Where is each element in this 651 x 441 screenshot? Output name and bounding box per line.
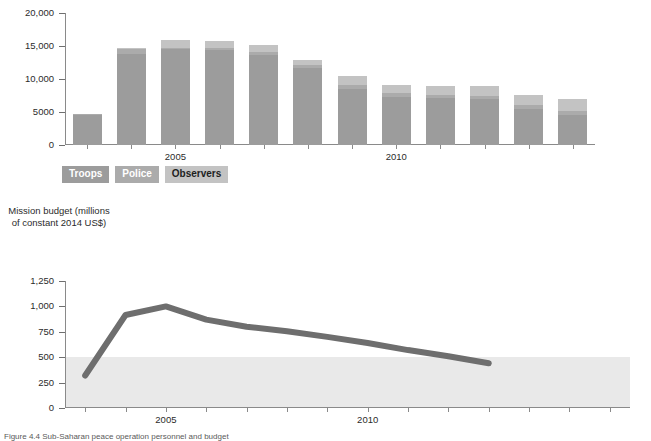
line-y-tick-0: 0 [59,408,65,409]
bar-y-tick-15000: 15,000 [59,46,65,47]
bar-y-tick-5000: 5000 [59,112,65,113]
bar-x-tick-2014 [573,145,574,149]
line-x-tick-label-2010: 2010 [357,415,378,425]
bar-x-tick-2008 [308,145,309,149]
bar-2004 [117,48,146,145]
bar-2006 [205,41,234,145]
bar-segment-troops-2012 [470,99,499,145]
line-x-tick-5 [287,408,288,412]
bar-segment-observers-2007 [249,45,278,52]
legend-item-observers[interactable]: Observers [165,166,228,183]
bar-segment-troops-2003 [73,115,102,145]
bar-segment-observers-2006 [205,41,234,48]
bar-y-tick-label-0: 0 [49,140,54,150]
bar-2003 [73,114,102,145]
bar-segment-troops-2004 [117,54,146,145]
line-chart-figure: Mission budget (millions of constant 201… [0,205,651,441]
bar-2013 [514,95,543,145]
bar-y-tick-label-5000: 5000 [33,107,54,117]
bar-x-tick-2013 [529,145,530,149]
bar-chart-legend: Troops Police Observers [62,166,228,183]
bar-y-tick-label-10000: 10,000 [25,74,54,84]
bar-segment-observers-2014 [558,99,587,110]
bar-segment-troops-2013 [514,109,543,145]
bar-chart-y-axis-line [65,13,66,145]
line-x-tick-8 [408,408,409,412]
bar-2007 [249,45,278,145]
line-y-tick-label-750: 750 [38,327,54,337]
line-x-tick-6 [327,408,328,412]
line-chart-plot-area: 02505007501,0001,250 20052010 [65,281,630,408]
bar-y-tick-label-15000: 15,000 [25,41,54,51]
bar-x-tick-2006 [220,145,221,149]
line-x-tick-4 [247,408,248,412]
line-x-tick-1 [126,408,127,412]
bar-segment-observers-2011 [426,86,455,95]
bar-x-tick-2003 [87,145,88,149]
bar-segment-troops-2008 [293,68,322,145]
bar-y-tick-20000: 20,000 [59,13,65,14]
line-x-tick-11 [529,408,530,412]
bar-2008 [293,60,322,145]
figure-caption: Figure 4.4 Sub-Saharan peace operation p… [4,432,229,441]
line-x-tick-12 [569,408,570,412]
line-x-tick-7 [368,408,369,412]
bar-2014 [558,99,587,145]
bar-x-tick-2007 [264,145,265,149]
legend-item-troops[interactable]: Troops [62,166,109,183]
bar-segment-troops-2010 [382,97,411,146]
bar-2011 [426,86,455,145]
line-y-tick-label-1000: 1,000 [30,302,54,312]
line-x-tick-13 [610,408,611,412]
bar-x-tick-label-2005: 2005 [165,152,186,162]
line-y-tick-label-250: 250 [38,378,54,388]
bar-segment-observers-2005 [161,40,190,48]
bar-2010 [382,85,411,145]
line-x-tick-3 [206,408,207,412]
line-y-tick-label-1250: 1,250 [30,276,54,286]
bar-x-tick-2004 [131,145,132,149]
bar-x-tick-2005 [175,145,176,149]
line-y-tick-label-0: 0 [49,403,54,413]
bar-x-tick-2011 [440,145,441,149]
line-y-tick-label-500: 500 [38,352,54,362]
line-x-tick-10 [489,408,490,412]
bar-2009 [338,76,367,145]
line-x-tick-2 [166,408,167,412]
bar-x-tick-label-2010: 2010 [386,152,407,162]
bar-2012 [470,86,499,145]
bar-segment-troops-2005 [161,49,190,145]
bar-2005 [161,40,190,145]
legend-item-police[interactable]: Police [115,166,158,183]
line-x-tick-9 [448,408,449,412]
bar-segment-troops-2009 [338,89,367,145]
bar-y-tick-0: 0 [59,145,65,146]
bar-segment-observers-2013 [514,95,543,106]
line-chart-series-path [65,281,630,408]
bar-segment-troops-2007 [249,55,278,145]
bar-x-tick-2012 [485,145,486,149]
bar-segment-observers-2012 [470,86,499,97]
bar-segment-observers-2010 [382,85,411,93]
line-x-tick-label-2005: 2005 [155,415,176,425]
bar-x-tick-2010 [396,145,397,149]
bar-segment-troops-2011 [426,98,455,145]
bar-segment-observers-2009 [338,76,367,84]
bar-segment-troops-2014 [558,115,587,145]
bar-segment-troops-2006 [205,50,234,145]
bar-chart-plot-area: 0500010,00015,00020,000 20052010 [65,13,595,145]
stacked-bar-chart-figure: 0500010,00015,00020,000 20052010 Troops … [0,0,651,196]
mission-budget-line [85,306,489,375]
bar-y-tick-10000: 10,000 [59,79,65,80]
line-chart-axis-title: Mission budget (millions of constant 201… [6,205,112,228]
bar-y-tick-label-20000: 20,000 [25,8,54,18]
bar-x-tick-2009 [352,145,353,149]
line-x-tick-0 [85,408,86,412]
